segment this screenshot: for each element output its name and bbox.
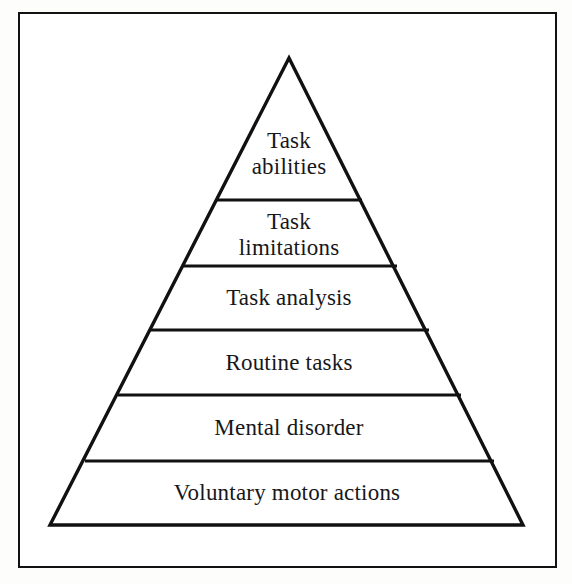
pyramid-tier-label-routine-tasks: Routine tasks	[119, 350, 459, 376]
pyramid-tier-label-task-limitations: Task limitations	[179, 209, 399, 261]
tier-label-layer: Task abilities Task limitations Task ana…	[0, 0, 572, 584]
pyramid-tier-label-mental-disorder: Mental disorder	[89, 415, 489, 441]
pyramid-tier-label-voluntary-motor-actions: Voluntary motor actions	[49, 480, 525, 506]
pyramid-figure: Task abilities Task limitations Task ana…	[0, 0, 572, 584]
pyramid-tier-label-task-analysis: Task analysis	[149, 285, 429, 311]
pyramid-tier-label-task-abilities: Task abilities	[189, 128, 389, 180]
